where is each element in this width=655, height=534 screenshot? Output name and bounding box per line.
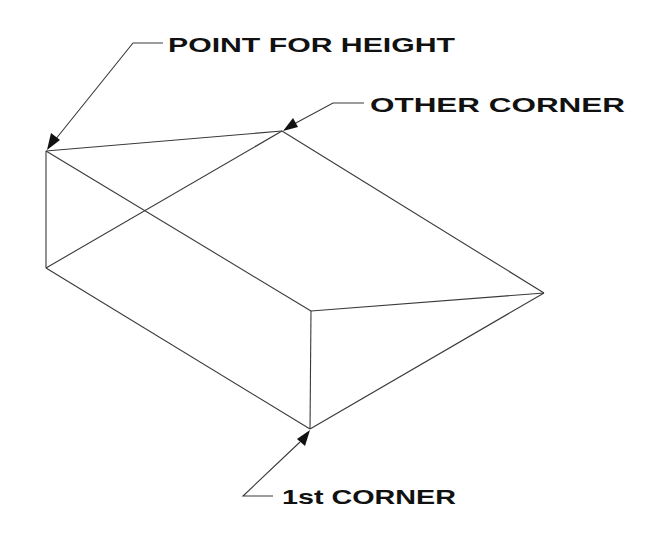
edge-bottom-right bbox=[310, 293, 544, 429]
edge-diagonal-top-left-middle bbox=[46, 151, 311, 311]
callout-first-corner: 1st CORNER bbox=[243, 430, 456, 508]
edge-lower-left-bottom bbox=[46, 268, 310, 429]
label-point-for-height: POINT FOR HEIGHT bbox=[168, 33, 455, 56]
edge-middle-right bbox=[311, 293, 544, 311]
label-other-corner: OTHER CORNER bbox=[370, 93, 625, 116]
edge-diagonal-lower-left-top-right bbox=[46, 131, 282, 268]
callout-other-corner: OTHER CORNER bbox=[283, 93, 625, 132]
edge-top bbox=[46, 131, 282, 151]
leader-line bbox=[55, 43, 163, 140]
edge-top-right-slope bbox=[282, 131, 544, 293]
leader-line bbox=[294, 103, 364, 124]
edge-middle-vertical bbox=[310, 311, 311, 429]
label-first-corner: 1st CORNER bbox=[282, 485, 456, 508]
wedge-diagram: POINT FOR HEIGHT OTHER CORNER 1st CORNER bbox=[0, 0, 655, 534]
wireframe-shape bbox=[46, 131, 544, 429]
arrowhead-icon bbox=[283, 118, 298, 131]
callout-point-for-height: POINT FOR HEIGHT bbox=[47, 33, 455, 151]
